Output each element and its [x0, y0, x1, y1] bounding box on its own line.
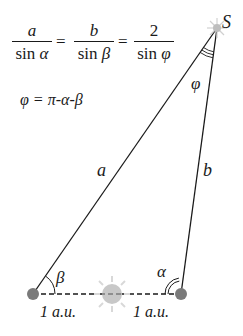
equals-sign-2: = [118, 33, 128, 50]
fraction-2-sin-phi: 2 sin φ [134, 22, 174, 62]
distance-left-label: 1 a.u. [40, 304, 76, 320]
denominator: sin φ [134, 42, 174, 62]
angle-alpha-label: α [157, 263, 166, 280]
distance-right-label: 1 a.u. [133, 304, 169, 320]
denominator: sin β [74, 42, 114, 62]
var-beta: β [102, 44, 110, 63]
numerator-2: 2 [134, 22, 174, 41]
side-a-label: a [97, 161, 106, 179]
earth-right-icon [175, 288, 187, 300]
numerator-a: a [12, 22, 52, 41]
side-b-label: b [203, 161, 212, 179]
star-label: S [222, 13, 231, 31]
fraction-a-sin-alpha: a sin α [12, 22, 52, 62]
relation-phi: φ = π-α-β [20, 92, 83, 108]
side-a-line [33, 28, 217, 294]
fraction-b-sin-beta: b sin β [74, 22, 114, 62]
angle-phi-label: φ [191, 75, 200, 92]
sin-fn: sin [78, 44, 98, 63]
var-phi: φ [161, 44, 170, 63]
sin-fn: sin [137, 44, 157, 63]
var-alpha: α [40, 44, 49, 63]
earth-left-icon [27, 288, 39, 300]
numerator-b: b [74, 22, 114, 41]
denominator: sin α [12, 42, 52, 62]
angle-beta-arc [46, 276, 56, 294]
sin-fn: sin [15, 44, 35, 63]
equals-sign-1: = [56, 33, 66, 50]
angle-beta-label: β [56, 269, 64, 286]
